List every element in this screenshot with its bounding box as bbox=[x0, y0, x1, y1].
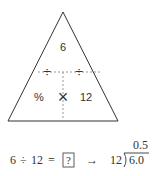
multiply-symbol: × bbox=[58, 87, 69, 107]
equation-divisor: 12 bbox=[31, 153, 43, 167]
triangle-top-value: 6 bbox=[60, 41, 66, 53]
equation-divide-operator: ÷ bbox=[20, 153, 27, 167]
long-division-quotient: 0.5 bbox=[133, 138, 148, 152]
long-division-divisor: 12 bbox=[110, 153, 122, 167]
divide-symbol-right: ÷ bbox=[75, 64, 83, 80]
formula-triangle-diagram: 6 ÷ ÷ % × 12 6 ÷ 12 = ? → 0.5 12 6.0 bbox=[0, 0, 152, 176]
unknown-answer: ? bbox=[66, 154, 71, 166]
equation-dividend: 6 bbox=[10, 153, 16, 167]
equation-equals: = bbox=[48, 153, 55, 167]
arrow-icon: → bbox=[86, 153, 98, 167]
long-division-dividend: 6.0 bbox=[129, 153, 144, 167]
triangle-bottom-right-value: 12 bbox=[80, 91, 92, 103]
triangle-bottom-left-value: % bbox=[34, 91, 44, 103]
divide-symbol-left: ÷ bbox=[43, 64, 51, 80]
